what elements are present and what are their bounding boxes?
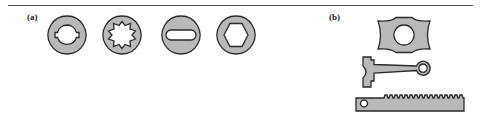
gear-rack-icon <box>356 95 464 111</box>
hex-bore-ring-icon <box>217 16 255 54</box>
slot-bore-disc-icon <box>162 16 200 54</box>
connecting-rod-icon <box>363 57 430 87</box>
spline-bore-ring-icon <box>103 16 141 54</box>
keyed-bore-ring-icon <box>48 16 86 54</box>
cam-icon <box>378 18 430 53</box>
